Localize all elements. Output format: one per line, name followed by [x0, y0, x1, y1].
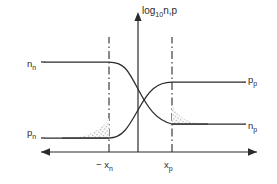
y-axis-arrow-up-icon: [134, 12, 141, 21]
x-axis-tick-label-xp-subscript: p: [169, 165, 173, 172]
x-axis-arrow-right-icon: [248, 148, 257, 155]
curve-label-np-subscript: p: [253, 126, 257, 133]
x-axis-tick-label-xp: xp: [164, 160, 173, 172]
y-axis-label-variables: n,p: [163, 5, 177, 16]
y-axis-label-base: log: [142, 5, 155, 16]
curve-n-path: [45, 62, 244, 124]
hatched-wedge-right-fill: [172, 105, 208, 124]
curve-label-pn: pn: [27, 128, 36, 140]
figure-container: log10n,p nn pn pp np − xn xp: [0, 0, 277, 184]
diagram-canvas: [0, 0, 277, 184]
y-axis: [134, 12, 141, 152]
hatched-wedge-left-fill: [62, 118, 109, 138]
x-axis-tick-label-xn-subscript: n: [109, 165, 113, 172]
curve-label-pp-subscript: p: [253, 80, 257, 87]
curve-p-path: [45, 82, 244, 138]
x-axis: [41, 148, 257, 155]
curve-label-np: np: [248, 121, 257, 133]
hatched-wedge-right: [172, 105, 208, 124]
curve-label-nn: nn: [27, 59, 36, 71]
x-axis-arrow-left-icon: [41, 148, 50, 155]
curve-label-pp: pp: [248, 75, 257, 87]
x-axis-tick-label-xn: − xn: [96, 160, 113, 172]
curve-label-pn-subscript: n: [32, 133, 36, 140]
curve-electron-concentration: [45, 62, 244, 124]
y-axis-label: log10n,p: [142, 6, 177, 18]
x-axis-tick-label-xn-symbol: − x: [96, 159, 109, 170]
y-axis-label-subscript: 10: [155, 11, 163, 18]
curve-label-nn-subscript: n: [32, 64, 36, 71]
curve-hole-concentration: [45, 82, 244, 138]
hatched-wedge-left: [62, 118, 109, 138]
